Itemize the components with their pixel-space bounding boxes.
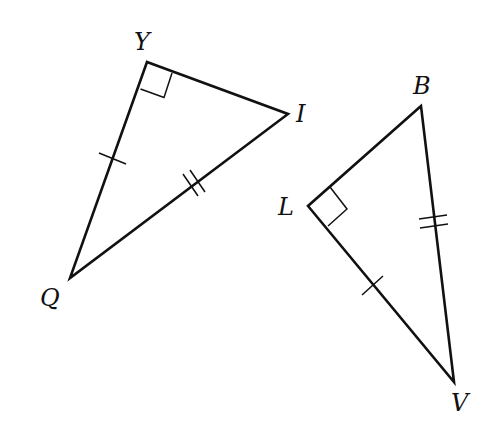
vertex-label-q: Q	[40, 284, 60, 312]
right-angle-marker-y	[141, 73, 173, 98]
vertex-label-i: I	[295, 100, 306, 128]
vertex-label-b: B	[412, 72, 431, 100]
triangle-yqi	[70, 62, 288, 278]
triangle-lbv-outline	[308, 106, 454, 382]
diagram-canvas: Y I Q B L V	[0, 0, 491, 439]
vertex-label-l: L	[277, 193, 294, 221]
triangle-lbv	[308, 106, 454, 382]
vertex-label-y: Y	[134, 28, 152, 56]
vertex-label-v: V	[451, 389, 471, 417]
right-angle-marker-l	[328, 187, 347, 226]
triangle-yqi-outline	[70, 62, 288, 278]
